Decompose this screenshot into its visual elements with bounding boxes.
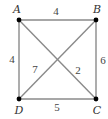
vertex-label-a: A [12,3,21,16]
edges [19,20,96,99]
vertex-c-dot [94,97,99,102]
vertex-label-b: B [92,3,101,16]
vertex-label-d: D [14,104,24,117]
vertex-b-dot [94,18,99,23]
weight-label-a-b: 4 [53,5,59,17]
weight-label-b-d: 7 [32,63,38,75]
weighted-graph-diagram: 4 4 6 5 7 2 A B C D [0,0,108,119]
weight-label-a-c: 2 [75,64,81,76]
weight-label-a-d: 4 [9,53,15,65]
vertex-a-dot [17,18,22,23]
weight-label-d-c: 5 [54,101,60,113]
vertex-d-dot [17,97,22,102]
weight-label-b-c: 6 [100,54,106,66]
vertex-label-c: C [93,104,102,117]
